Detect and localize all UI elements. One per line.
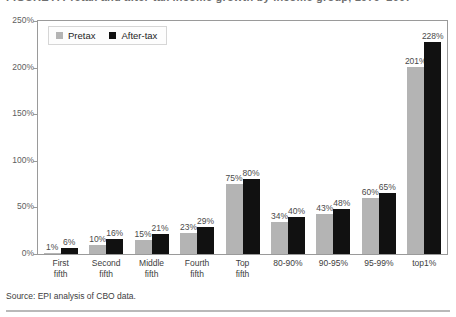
- y-axis-tick-label: 200%: [0, 62, 34, 72]
- bar-after-tax: 21%: [152, 234, 169, 254]
- bar-after-tax: 65%: [379, 193, 396, 254]
- bar-value-label: 75%: [225, 173, 242, 183]
- x-axis-label-line: fifth: [83, 269, 128, 280]
- x-axis-label-line: First: [38, 258, 83, 269]
- bar-pretax: 15%: [135, 240, 152, 254]
- y-axis-tick-label: 150%: [0, 108, 34, 118]
- x-axis-label-line: 80-90%: [265, 258, 310, 269]
- bar-value-label: 48%: [333, 198, 350, 208]
- bar-group: 60%65%: [362, 21, 396, 254]
- bar-group: 1%6%: [44, 21, 78, 254]
- bar-value-label: 10%: [89, 234, 106, 244]
- bar-group: 43%48%: [316, 21, 350, 254]
- bar-after-tax: 48%: [333, 209, 350, 254]
- x-axis-label-line: fifth: [174, 269, 219, 280]
- x-axis-label-line: Fourth: [174, 258, 219, 269]
- bar-group: 34%40%: [271, 21, 305, 254]
- bar-value-label: 228%: [422, 31, 444, 41]
- x-axis-label: 80-90%: [265, 258, 310, 269]
- legend-label-pretax: Pretax: [68, 30, 95, 41]
- bar-group: 201%228%: [407, 21, 441, 254]
- x-axis-label: Topfifth: [220, 258, 265, 279]
- bar-pretax: 10%: [89, 245, 106, 254]
- bar-value-label: 1%: [46, 242, 58, 252]
- bar-pretax: 1%: [44, 253, 61, 254]
- x-axis-label: 95-99%: [356, 258, 401, 269]
- x-axis-label-line: fifth: [38, 269, 83, 280]
- bar-value-label: 6%: [63, 237, 75, 247]
- x-axis-label: Secondfifth: [83, 258, 128, 279]
- bar-after-tax: 80%: [243, 179, 260, 254]
- bar-value-label: 15%: [135, 229, 152, 239]
- x-axis-label-line: Top: [220, 258, 265, 269]
- bar-value-label: 34%: [271, 211, 288, 221]
- x-axis-label-line: fifth: [220, 269, 265, 280]
- bar-value-label: 60%: [362, 187, 379, 197]
- y-axis-tick-label: 0%: [0, 248, 34, 258]
- bar-after-tax: 16%: [106, 239, 123, 254]
- bar-value-label: 43%: [316, 203, 333, 213]
- bar-value-label: 23%: [180, 222, 197, 232]
- x-axis-label-line: fifth: [129, 269, 174, 280]
- bar-value-label: 65%: [379, 182, 396, 192]
- bar-group: 15%21%: [135, 21, 169, 254]
- bar-after-tax: 40%: [288, 217, 305, 254]
- bar-value-label: 16%: [106, 228, 123, 238]
- bar-group: 75%80%: [226, 21, 260, 254]
- x-axis-label: Middlefifth: [129, 258, 174, 279]
- bar-after-tax: 6%: [61, 248, 78, 254]
- bar-group: 10%16%: [89, 21, 123, 254]
- legend-item-pretax: Pretax: [56, 30, 95, 41]
- source-note: Source: EPI analysis of CBO data.: [6, 291, 136, 301]
- x-axis-label-line: 95-99%: [356, 258, 401, 269]
- x-axis-label: Fourthfifth: [174, 258, 219, 279]
- bar-pretax: 43%: [316, 214, 333, 254]
- bar-pretax: 34%: [271, 222, 288, 254]
- x-axis-label-line: 90-95%: [311, 258, 356, 269]
- x-axis-label-line: top1%: [402, 258, 447, 269]
- x-axis-label: Firstfifth: [38, 258, 83, 279]
- bottom-divider: [6, 310, 450, 312]
- legend-label-after-tax: After-tax: [121, 30, 157, 41]
- legend-swatch-icon: [109, 32, 116, 39]
- bar-value-label: 80%: [242, 168, 259, 178]
- bar-group: 23%29%: [180, 21, 214, 254]
- bar-pretax: 201%: [407, 67, 424, 254]
- chart-container: 0%50%100%150%200%250% 1%6%10%16%15%21%23…: [0, 0, 456, 290]
- x-axis-label: top1%: [402, 258, 447, 269]
- y-axis-tick-label: 100%: [0, 155, 34, 165]
- bar-pretax: 75%: [226, 184, 243, 254]
- x-axis-label: 90-95%: [311, 258, 356, 269]
- bar-value-label: 40%: [288, 206, 305, 216]
- bar-pretax: 60%: [362, 198, 379, 254]
- legend-item-after-tax: After-tax: [109, 30, 157, 41]
- x-axis-label-line: Middle: [129, 258, 174, 269]
- chart-legend: Pretax After-tax: [48, 26, 167, 45]
- legend-swatch-icon: [56, 32, 63, 39]
- bar-series-layer: 1%6%10%16%15%21%23%29%75%80%34%40%43%48%…: [38, 21, 447, 254]
- bar-after-tax: 29%: [197, 227, 214, 254]
- x-axis-label-line: Second: [83, 258, 128, 269]
- bar-value-label: 21%: [152, 223, 169, 233]
- x-axis-labels: FirstfifthSecondfifthMiddlefifthFourthfi…: [38, 258, 447, 286]
- bar-value-label: 29%: [197, 216, 214, 226]
- bar-after-tax: 228%: [424, 42, 441, 254]
- bar-pretax: 23%: [180, 233, 197, 254]
- y-axis-tick-label: 250%: [0, 15, 34, 25]
- y-axis-tick-label: 50%: [0, 201, 34, 211]
